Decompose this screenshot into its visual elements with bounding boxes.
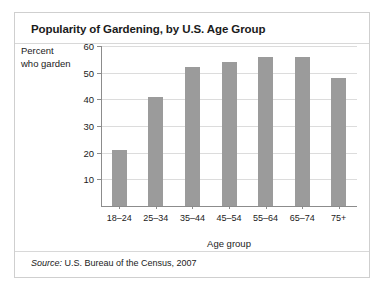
bar <box>295 57 310 206</box>
bar <box>185 67 200 206</box>
bar <box>148 97 163 206</box>
y-axis-line <box>101 46 102 207</box>
y-tick-label: 60 <box>83 41 94 52</box>
figure-card: Popularity of Gardening, by U.S. Age Gro… <box>14 12 370 278</box>
bar <box>258 57 273 206</box>
x-tick-label: 65–74 <box>290 213 315 223</box>
gridline <box>101 46 357 47</box>
bar <box>331 78 346 206</box>
bar <box>222 62 237 206</box>
source-note: Source: U.S. Bureau of the Census, 2007 <box>31 258 197 268</box>
x-tick-label: 45–54 <box>216 213 241 223</box>
bar <box>112 150 127 206</box>
chart-title: Popularity of Gardening, by U.S. Age Gro… <box>31 23 265 35</box>
source-divider <box>15 251 369 252</box>
x-tick-label: 25–34 <box>143 213 168 223</box>
y-tick-label: 30 <box>83 121 94 132</box>
y-tick-label: 10 <box>83 174 94 185</box>
source-label: Source: <box>31 258 62 268</box>
plot-wrapper: 605040302010 18–2425–3435–4445–5455–6465… <box>101 46 357 218</box>
x-axis-line <box>101 206 357 207</box>
y-axis-label: Percent who garden <box>21 45 93 70</box>
y-tick-label: 40 <box>83 94 94 105</box>
plot-area: 605040302010 18–2425–3435–4445–5455–6465… <box>101 46 357 206</box>
x-tick-label: 75+ <box>331 213 346 223</box>
x-tick-label: 35–44 <box>180 213 205 223</box>
source-text: U.S. Bureau of the Census, 2007 <box>62 258 197 268</box>
y-tick-label: 50 <box>83 67 94 78</box>
x-tick-label: 18–24 <box>107 213 132 223</box>
y-axis-label-line2: who garden <box>21 58 93 71</box>
y-tick-label: 20 <box>83 147 94 158</box>
title-divider <box>15 43 369 44</box>
x-axis-title: Age group <box>101 238 357 249</box>
x-tick-label: 55–64 <box>253 213 278 223</box>
y-axis-label-line1: Percent <box>21 45 93 58</box>
